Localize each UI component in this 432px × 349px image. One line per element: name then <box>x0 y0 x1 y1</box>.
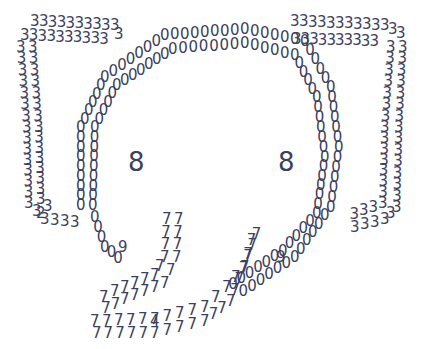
glyph: 3 <box>359 203 369 218</box>
glyph: 7 <box>104 326 114 341</box>
glyph: 3 <box>370 215 380 230</box>
glyph: 9 <box>276 250 286 265</box>
glyph: 3 <box>380 212 390 227</box>
glyph: 0 <box>178 41 188 56</box>
glyph: 7 <box>115 326 125 341</box>
glyph: 0 <box>270 43 280 58</box>
glyph: 7 <box>160 276 170 291</box>
glyph: 0 <box>250 38 260 53</box>
glyph: 0 <box>260 41 270 56</box>
glyph: 7 <box>163 323 173 338</box>
glyph: 0 <box>240 36 250 51</box>
glyph: 0 <box>209 39 219 54</box>
glyph: 9 <box>118 240 128 255</box>
glyph: 0 <box>290 32 300 47</box>
glyph: 0 <box>280 30 290 45</box>
glyph: 3 <box>350 207 360 222</box>
glyph: 7 <box>188 317 198 332</box>
glyph: 3 <box>378 196 388 211</box>
left-eye: 8 <box>128 149 145 175</box>
right-eye: 8 <box>278 149 295 175</box>
glyph: 0 <box>168 42 178 57</box>
digit-elephant-art: 8 8 333333333333333333333333333333333333… <box>0 0 432 349</box>
glyph: 3 <box>360 217 370 232</box>
glyph: 0 <box>219 38 229 53</box>
glyph: 7 <box>127 326 137 341</box>
glyph: 4 <box>150 314 160 329</box>
glyph: 7 <box>130 288 140 303</box>
glyph: 3 <box>70 215 80 230</box>
glyph: 0 <box>290 250 300 265</box>
glyph: 7 <box>111 297 121 312</box>
glyph: 7 <box>150 280 160 295</box>
glyph: 0 <box>199 39 209 54</box>
glyph: 7 <box>140 284 150 299</box>
glyph: 7 <box>252 227 262 242</box>
glyph: 7 <box>138 326 148 341</box>
glyph: 2 <box>36 206 46 221</box>
glyph: 0 <box>280 46 290 61</box>
glyph: 3 <box>50 213 60 228</box>
glyph: 3 <box>114 27 124 42</box>
glyph: 7 <box>120 292 130 307</box>
glyph: 7 <box>175 320 185 335</box>
glyph: 3 <box>369 34 379 49</box>
glyph: 0 <box>230 37 240 52</box>
glyph: 0 <box>261 255 271 270</box>
glyph: 3 <box>99 32 109 47</box>
glyph: 3 <box>60 214 70 229</box>
glyph: 7 <box>92 326 102 341</box>
glyph: 3 <box>369 200 379 215</box>
glyph: 0 <box>189 40 199 55</box>
glyph: 0 <box>253 260 263 275</box>
